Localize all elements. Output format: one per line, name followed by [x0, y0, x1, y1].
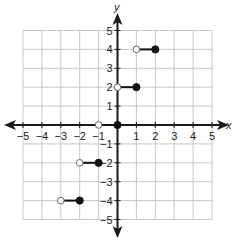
open-endpoint-icon — [95, 122, 102, 129]
x-tick-label: 5 — [209, 130, 215, 142]
open-endpoint-icon — [76, 160, 83, 167]
y-tick-label: −4 — [100, 195, 113, 207]
x-tick-label: −2 — [73, 130, 86, 142]
closed-endpoint-icon — [152, 46, 159, 53]
x-tick-label: 3 — [171, 130, 177, 142]
closed-endpoint-icon — [95, 159, 102, 166]
y-tick-label: 3 — [106, 62, 112, 74]
open-endpoint-icon — [114, 84, 121, 91]
y-tick-label: 2 — [106, 81, 112, 93]
step-segment — [76, 159, 102, 166]
x-tick-label: 1 — [133, 130, 139, 142]
step-segment — [133, 46, 159, 53]
step-segment — [114, 84, 140, 91]
open-endpoint-icon — [133, 46, 140, 53]
y-tick-label: 4 — [106, 43, 112, 55]
closed-endpoint-icon — [76, 197, 83, 204]
closed-endpoint-icon — [133, 84, 140, 91]
closed-endpoint-icon — [114, 121, 121, 128]
x-tick-label: 4 — [190, 130, 196, 142]
y-tick-label: 1 — [106, 100, 112, 112]
y-tick-label: −1 — [100, 138, 113, 150]
open-endpoint-icon — [58, 197, 65, 204]
y-axis-label: y — [113, 1, 121, 13]
x-tick-label: 2 — [152, 130, 158, 142]
coordinate-plane: −5−4−3−2−112345−5−4−3−2−112345 x y — [0, 0, 236, 241]
step-segment — [58, 197, 84, 204]
y-tick-label: −5 — [100, 214, 113, 226]
x-axis-label: x — [225, 119, 232, 131]
y-tick-label: 5 — [106, 25, 112, 37]
x-tick-label: −4 — [36, 130, 49, 142]
x-tick-label: −3 — [55, 130, 68, 142]
x-tick-label: −5 — [17, 130, 30, 142]
y-tick-label: −3 — [100, 176, 113, 188]
step-segment — [95, 121, 121, 128]
